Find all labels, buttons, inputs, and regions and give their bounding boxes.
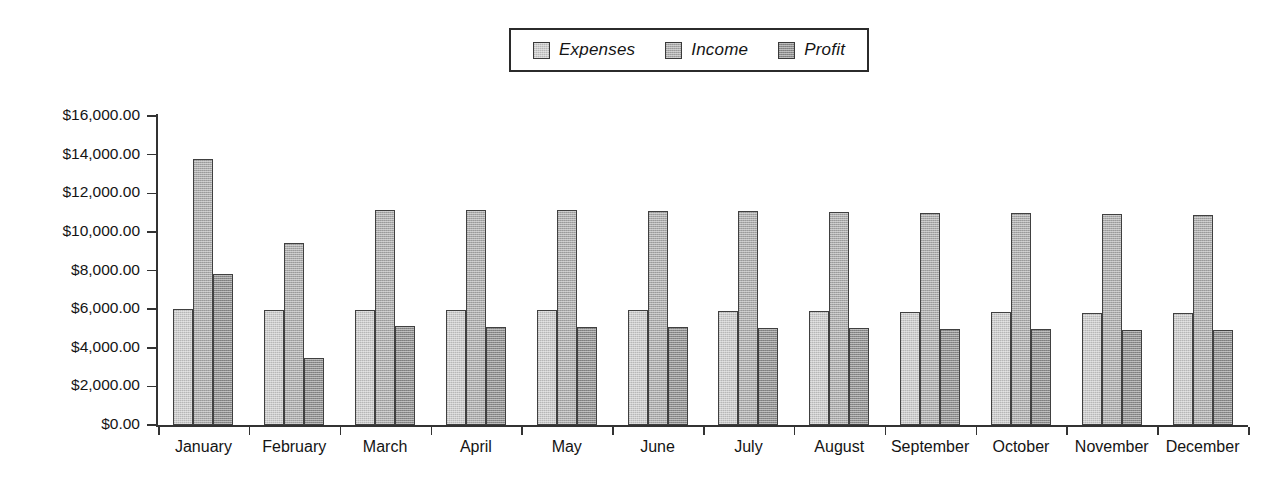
x-axis-label-august: August: [794, 438, 885, 456]
bar-profit-august[interactable]: [849, 328, 869, 425]
bar-expenses-july[interactable]: [718, 311, 738, 425]
bar-expenses-february[interactable]: [264, 310, 284, 425]
bar-income-march[interactable]: [375, 210, 395, 425]
bar-group: [1082, 116, 1142, 425]
bar-expenses-august[interactable]: [809, 311, 829, 425]
bar-income-september[interactable]: [920, 213, 940, 425]
legend-item-income[interactable]: Income: [665, 40, 748, 60]
bar-expenses-september[interactable]: [900, 312, 920, 425]
bar-profit-january[interactable]: [213, 274, 233, 425]
bar-profit-november[interactable]: [1122, 330, 1142, 425]
bar-expenses-october[interactable]: [991, 312, 1011, 425]
x-axis-tick: [431, 427, 433, 435]
x-axis-tick: [1248, 427, 1250, 435]
legend-label: Expenses: [559, 40, 635, 60]
plot-area: [158, 116, 1248, 425]
bar-profit-june[interactable]: [668, 327, 688, 425]
x-axis-label-april: April: [431, 438, 522, 456]
x-axis-tick: [1066, 427, 1068, 435]
bar-expenses-january[interactable]: [173, 309, 193, 425]
bar-income-august[interactable]: [829, 212, 849, 425]
chart-legend: ExpensesIncomeProfit: [509, 28, 869, 72]
bar-group: [264, 116, 324, 425]
x-axis-label-october: October: [976, 438, 1067, 456]
legend-label: Profit: [804, 40, 845, 60]
y-axis-tick-label: $0.00: [20, 415, 140, 433]
legend-item-expenses[interactable]: Expenses: [533, 40, 635, 60]
x-axis-label-september: September: [885, 438, 976, 456]
y-axis-tick-label: $2,000.00: [20, 376, 140, 394]
bar-group: [809, 116, 869, 425]
bar-profit-october[interactable]: [1031, 329, 1051, 425]
y-axis-tick: [147, 386, 157, 388]
bar-expenses-june[interactable]: [628, 310, 648, 425]
bar-group: [537, 116, 597, 425]
bar-profit-march[interactable]: [395, 326, 415, 425]
bar-group: [991, 116, 1051, 425]
bar-income-july[interactable]: [738, 211, 758, 425]
bar-chart: ExpensesIncomeProfit $0.00$2,000.00$4,00…: [0, 0, 1263, 486]
y-axis-tick-label: $12,000.00: [20, 183, 140, 201]
bar-income-april[interactable]: [466, 210, 486, 425]
y-axis-tick-label: $16,000.00: [20, 106, 140, 124]
y-axis-tick-label: $8,000.00: [20, 261, 140, 279]
bar-expenses-april[interactable]: [446, 310, 466, 425]
x-axis-label-december: December: [1157, 438, 1248, 456]
x-axis-tick: [158, 427, 160, 435]
bar-income-october[interactable]: [1011, 213, 1031, 425]
bar-income-january[interactable]: [193, 159, 213, 425]
y-axis-tick: [147, 115, 157, 117]
bar-group: [718, 116, 778, 425]
y-axis-tick-label: $10,000.00: [20, 222, 140, 240]
y-axis-tick: [147, 270, 157, 272]
bar-profit-july[interactable]: [758, 328, 778, 425]
bar-profit-september[interactable]: [940, 329, 960, 425]
x-axis-tick: [703, 427, 705, 435]
bar-expenses-may[interactable]: [537, 310, 557, 425]
bar-expenses-march[interactable]: [355, 310, 375, 425]
x-axis-tick: [521, 427, 523, 435]
x-axis-tick: [340, 427, 342, 435]
bar-profit-december[interactable]: [1213, 330, 1233, 425]
bar-profit-may[interactable]: [577, 327, 597, 425]
bar-income-december[interactable]: [1193, 215, 1213, 426]
y-axis-tick: [147, 193, 157, 195]
x-axis-tick: [249, 427, 251, 435]
legend-label: Income: [691, 40, 748, 60]
y-axis-tick: [147, 154, 157, 156]
bar-profit-february[interactable]: [304, 358, 324, 425]
bar-group: [446, 116, 506, 425]
bar-group: [173, 116, 233, 425]
x-axis-label-june: June: [612, 438, 703, 456]
legend-item-profit[interactable]: Profit: [778, 40, 845, 60]
x-axis-tick: [794, 427, 796, 435]
bar-expenses-november[interactable]: [1082, 313, 1102, 425]
bar-income-june[interactable]: [648, 211, 668, 425]
x-axis-label-july: July: [703, 438, 794, 456]
x-axis-label-march: March: [340, 438, 431, 456]
y-axis-tick: [147, 308, 157, 310]
x-axis-tick: [1157, 427, 1159, 435]
x-axis-baseline: [156, 425, 1248, 427]
bar-profit-april[interactable]: [486, 327, 506, 425]
bar-expenses-december[interactable]: [1173, 313, 1193, 425]
y-axis-tick-label: $6,000.00: [20, 299, 140, 317]
bar-group: [628, 116, 688, 425]
x-axis-label-may: May: [521, 438, 612, 456]
x-axis-tick: [885, 427, 887, 435]
bar-income-may[interactable]: [557, 210, 577, 425]
y-axis-tick: [147, 424, 157, 426]
bar-income-february[interactable]: [284, 243, 304, 426]
x-axis-tick: [976, 427, 978, 435]
bar-group: [900, 116, 960, 425]
y-axis-tick: [147, 231, 157, 233]
x-axis-label-january: January: [158, 438, 249, 456]
bar-income-november[interactable]: [1102, 214, 1122, 425]
bar-group: [355, 116, 415, 425]
x-axis-tick: [612, 427, 614, 435]
y-axis-tick-label: $4,000.00: [20, 338, 140, 356]
legend-swatch-profit-icon: [778, 42, 795, 59]
x-axis-label-november: November: [1066, 438, 1157, 456]
bar-group: [1173, 116, 1233, 425]
legend-swatch-expenses-icon: [533, 42, 550, 59]
